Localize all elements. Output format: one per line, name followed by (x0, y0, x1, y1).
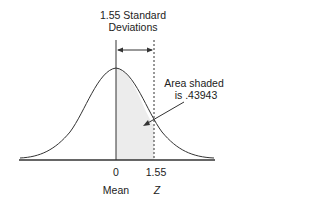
annotation-line-2: is .43943 (175, 89, 218, 101)
shaded-area (116, 68, 154, 160)
tick-z: 1.55 (146, 166, 166, 178)
annotation-line-1: Area shaded (164, 77, 224, 89)
label-mean: Mean (103, 184, 129, 196)
tick-mean: 0 (113, 166, 119, 178)
label-z: Z (154, 184, 160, 196)
title-line-1: 1.55 Standard (100, 9, 166, 21)
annotation-arrow (143, 102, 184, 126)
title-line-2: Deviations (108, 21, 157, 33)
width-arrow (117, 48, 153, 53)
